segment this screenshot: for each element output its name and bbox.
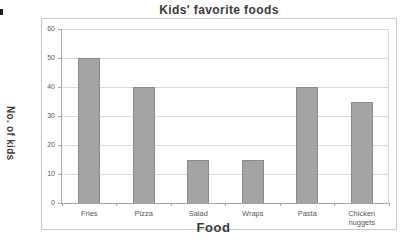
- gridline-20: [62, 145, 389, 146]
- chart-frame: 0102030405060FriesPizzaSaladWrapsPastaCh…: [41, 18, 397, 230]
- x-category-label-pizza: Pizza: [117, 209, 172, 218]
- gridline-30: [62, 116, 389, 117]
- y-tick-label-10: 10: [33, 169, 55, 178]
- bar-fries: [78, 58, 100, 203]
- x-tick-mark-0: [62, 203, 63, 206]
- x-category-label-salad: Salad: [171, 209, 226, 218]
- chart-canvas: Kids' favorite foods 0102030405060FriesP…: [0, 0, 411, 250]
- y-axis-title: No. of kids: [5, 58, 16, 208]
- x-axis-title: Food: [42, 220, 385, 235]
- bar-salad: [187, 160, 209, 204]
- bar-pizza: [133, 87, 155, 203]
- x-tick-mark-2: [171, 203, 172, 206]
- gridline-60: [62, 29, 389, 30]
- y-tick-mark-40: [58, 87, 61, 88]
- gridline-10: [62, 174, 389, 175]
- bar-chicken-nuggets: [351, 102, 373, 204]
- y-tick-mark-30: [58, 116, 61, 117]
- x-tick-mark-6: [389, 203, 390, 206]
- x-tick-mark-5: [334, 203, 335, 206]
- gridline-50: [62, 58, 389, 59]
- x-category-label-fries: Fries: [62, 209, 117, 218]
- gridline-40: [62, 87, 389, 88]
- x-category-label-pasta: Pasta: [280, 209, 335, 218]
- x-category-label-wraps: Wraps: [226, 209, 281, 218]
- y-tick-label-0: 0: [33, 198, 55, 207]
- y-tick-label-20: 20: [33, 140, 55, 149]
- y-tick-label-40: 40: [33, 82, 55, 91]
- bar-wraps: [242, 160, 264, 204]
- chart-title: Kids' favorite foods: [41, 3, 397, 17]
- x-tick-mark-1: [116, 203, 117, 206]
- bar-pasta: [296, 87, 318, 203]
- x-tick-mark-4: [280, 203, 281, 206]
- y-tick-label-30: 30: [33, 111, 55, 120]
- y-tick-mark-60: [58, 29, 61, 30]
- y-tick-mark-10: [58, 174, 61, 175]
- plot-area: 0102030405060FriesPizzaSaladWrapsPastaCh…: [62, 29, 389, 203]
- y-tick-mark-20: [58, 145, 61, 146]
- x-tick-mark-3: [225, 203, 226, 206]
- y-tick-label-60: 60: [33, 24, 55, 33]
- y-tick-mark-50: [58, 58, 61, 59]
- left-edge-artifact: [0, 9, 3, 15]
- y-tick-label-50: 50: [33, 53, 55, 62]
